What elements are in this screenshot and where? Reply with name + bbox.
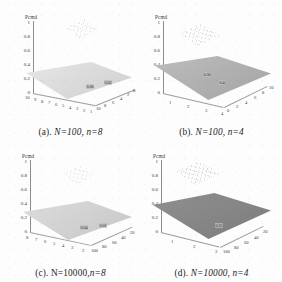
x-tick-c-3: 5 xyxy=(53,241,55,246)
x-tick-d-0: 1 xyxy=(171,239,173,244)
z-axis-line-a xyxy=(33,21,34,93)
caption-c-N: N=10000, xyxy=(51,268,90,278)
ghost-mesh-a xyxy=(64,18,98,40)
caption-a: (a). N=100, n=8 xyxy=(0,127,141,137)
y-tick-b-0: 0 xyxy=(227,108,229,113)
caption-c-prefix: (c). xyxy=(35,268,48,278)
y-tick-d-2: 60 xyxy=(244,240,249,245)
x-tick-a-2: 8 xyxy=(41,99,43,104)
plot-area-c: Pcmd 1 0.8 0.6 0.4 0.2 0 0.04 0.01 8 7 6… xyxy=(0,141,141,259)
y-tick-a-1: 8 xyxy=(104,103,106,108)
surface-annotation-c-0: 0.04 xyxy=(80,225,88,230)
caption-a-N: N=100, xyxy=(54,127,84,137)
caption-d: (d). N=10000, n=4 xyxy=(141,268,282,278)
z-tick-d-4: 0.2 xyxy=(147,215,158,220)
plot-area-b: Pcmd 1 0.8 0.6 0.4 0.2 0 0.4 0.36 1 2 3 … xyxy=(141,0,282,118)
x-tick-a-8: 2 xyxy=(83,108,85,113)
caption-d-n: n=4 xyxy=(232,268,248,278)
x-tick-c-2: 6 xyxy=(44,239,46,244)
ghost-mesh-b xyxy=(176,24,220,46)
y-tick-d-3: 40 xyxy=(254,235,259,240)
surface-annotation-a-1: 0.02 xyxy=(104,80,112,85)
x-tick-b-2: 3 xyxy=(205,108,207,113)
y-tick-d-0: 100 xyxy=(223,249,230,254)
x-tick-d-2: 3 xyxy=(215,249,217,254)
z-tick-a-4: 0.2 xyxy=(19,76,30,81)
x-tick-a-3: 7 xyxy=(48,100,50,105)
z-tick-d-5: 0 xyxy=(147,229,158,234)
x-tick-a-6: 4 xyxy=(69,105,71,110)
z-tick-c-3: 0.4 xyxy=(16,201,27,206)
surface-d xyxy=(153,193,271,239)
caption-c: (c). N=10000,n=8 xyxy=(0,268,141,278)
surface-annotation-b-1: 0.36 xyxy=(203,72,211,77)
z-axis-line-c xyxy=(30,160,31,232)
y-tick-a-0: 10 xyxy=(96,106,101,111)
y-tick-a-3: 4 xyxy=(120,96,122,101)
z-tick-b-5: 0 xyxy=(149,90,160,95)
x-tick-a-7: 3 xyxy=(76,106,78,111)
y-tick-a-4: 2 xyxy=(127,92,129,97)
plot-area-d: Pcmd 1 0.8 0.6 0.4 0.2 0 0.25 1 2 3 100 … xyxy=(141,141,282,259)
z-tick-b-2: 0.6 xyxy=(149,48,160,53)
z-tick-a-5: 0 xyxy=(19,90,30,95)
x-tick-c-4: 4 xyxy=(62,243,64,248)
z-tick-a-2: 0.6 xyxy=(19,48,30,53)
y-axis-line-a xyxy=(96,89,135,106)
x-tick-b-1: 2 xyxy=(187,104,189,109)
caption-d-N: N=10000, xyxy=(191,268,230,278)
z-tick-d-0: 1 xyxy=(147,159,158,164)
y-tick-d-1: 80 xyxy=(234,245,239,250)
caption-b-n: n=4 xyxy=(228,127,244,137)
panel-a: Pcmd 1 0.8 0.6 0.4 0.2 0 0.06 0.02 10 9 … xyxy=(0,0,141,141)
caption-a-prefix: (a). xyxy=(39,127,52,137)
surface-annotation-a-0: 0.06 xyxy=(86,84,94,89)
z-axis-line-d xyxy=(161,160,162,232)
x-tick-d-1: 2 xyxy=(193,244,195,249)
surface-annotation-c-1: 0.01 xyxy=(99,223,107,228)
x-tick-a-1: 9 xyxy=(34,97,36,102)
surface-annotation-b-0: 0.4 xyxy=(219,80,225,85)
surface-annotation-d-0: 0.25 xyxy=(215,223,223,228)
x-tick-c-0: 8 xyxy=(26,235,28,240)
z-axis-line-b xyxy=(163,21,164,93)
ghost-mesh-d xyxy=(172,161,220,185)
z-tick-a-1: 0.8 xyxy=(19,34,30,39)
x-tick-a-4: 6 xyxy=(55,102,57,107)
panel-d: Pcmd 1 0.8 0.6 0.4 0.2 0 0.25 1 2 3 100 … xyxy=(141,141,282,282)
z-tick-b-1: 0.8 xyxy=(149,34,160,39)
caption-b-N: N=100, xyxy=(196,127,226,137)
y-tick-c-3: 40 xyxy=(121,235,126,240)
z-tick-a-0: 1 xyxy=(19,20,30,25)
y-tick-c-0: 100 xyxy=(91,248,98,253)
z-tick-c-5: 0 xyxy=(16,229,27,234)
x-tick-c-6: 2 xyxy=(82,248,84,253)
z-tick-c-2: 0.6 xyxy=(16,187,27,192)
y-tick-b-1: 2 xyxy=(236,104,238,109)
z-tick-c-1: 0.8 xyxy=(16,173,27,178)
caption-b-prefix: (b). xyxy=(179,127,193,137)
caption-b: (b). N=100, n=4 xyxy=(141,127,282,137)
x-tick-a-9: 1 xyxy=(90,109,92,114)
z-tick-d-1: 0.8 xyxy=(147,173,158,178)
y-tick-c-2: 60 xyxy=(112,240,117,245)
y-tick-b-4: 8 xyxy=(262,90,264,95)
y-tick-b-3: 6 xyxy=(254,95,256,100)
y-tick-b-2: 4 xyxy=(245,100,247,105)
x-tick-c-1: 7 xyxy=(35,237,37,242)
x-tick-b-3: 4 xyxy=(221,111,223,116)
caption-c-n: n=8 xyxy=(90,268,106,278)
z-tick-d-2: 0.6 xyxy=(147,187,158,192)
panel-b: Pcmd 1 0.8 0.6 0.4 0.2 0 0.4 0.36 1 2 3 … xyxy=(141,0,282,141)
y-tick-a-5: 0 xyxy=(133,88,135,93)
y-tick-d-4: 20 xyxy=(263,229,268,234)
z-tick-a-3: 0.4 xyxy=(19,62,30,67)
z-tick-c-4: 0.2 xyxy=(16,215,27,220)
z-tick-b-4: 0.2 xyxy=(149,76,160,81)
x-tick-b-0: 1 xyxy=(169,100,171,105)
x-tick-c-5: 3 xyxy=(71,245,73,250)
panel-c: Pcmd 1 0.8 0.6 0.4 0.2 0 0.04 0.01 8 7 6… xyxy=(0,141,141,282)
y-tick-c-4: 20 xyxy=(130,230,135,235)
y-tick-c-1: 80 xyxy=(102,244,107,249)
x-tick-a-0: 10 xyxy=(25,95,30,100)
